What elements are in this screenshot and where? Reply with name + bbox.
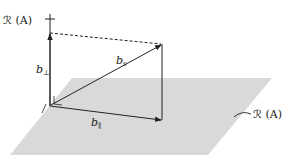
projection-diagram: ℛ (A) b⊥ bs b∥ ℛ (A) (0, 0, 288, 163)
b-s-label: bs (116, 54, 127, 68)
dashed-projection-line (50, 33, 161, 44)
range-top-label: ℛ (A) (3, 14, 32, 27)
range-plane-label: ℛ (A) (253, 108, 282, 121)
range-plane (10, 78, 272, 155)
b-perp-label: b⊥ (36, 63, 50, 77)
